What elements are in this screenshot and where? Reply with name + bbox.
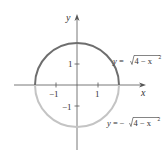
y-tick-label-neg1: −1 [62, 102, 72, 112]
upper-equation: y = 4 − x 2 [112, 54, 162, 66]
y-tick-label-1: 1 [68, 59, 73, 69]
x-tick-label-1: 1 [95, 89, 100, 99]
circle-plot: y x −1 1 1 −1 y = 4 − x 2 y = − 4 − x 2 [0, 0, 167, 154]
upper-equation-exponent: 2 [159, 54, 162, 60]
lower-equation-prefix: y = − [106, 118, 125, 128]
lower-equation-exponent: 2 [158, 116, 161, 122]
lower-equation: y = − 4 − x 2 [106, 116, 161, 128]
x-tick-label-neg1: −1 [49, 89, 59, 99]
y-axis-label: y [65, 12, 71, 23]
lower-equation-radicand: 4 − x [134, 118, 152, 128]
x-axis-label: x [140, 87, 146, 98]
upper-equation-radicand: 4 − x [135, 56, 153, 66]
upper-equation-prefix: y = [112, 56, 124, 66]
